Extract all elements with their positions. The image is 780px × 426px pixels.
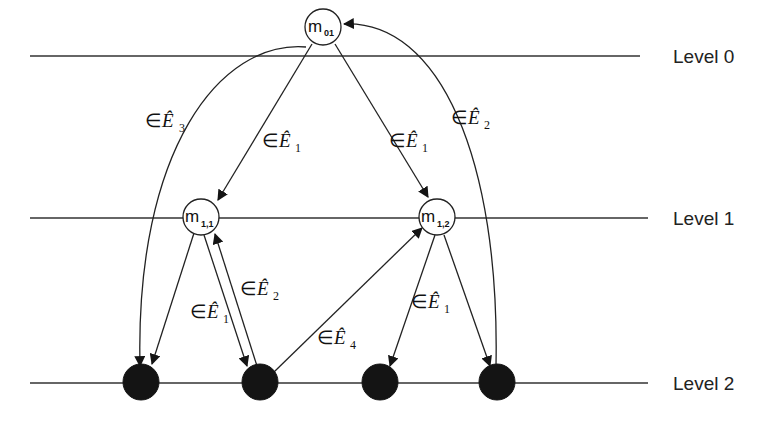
svg-text:1: 1 [223, 312, 229, 326]
svg-text:4: 4 [350, 338, 356, 352]
edge-label-m11-n2: ∈Ê 1 [190, 301, 229, 326]
node-level2-2 [242, 364, 278, 400]
edge-m01-m11 [218, 44, 312, 200]
edge-label-n2-m11: ∈Ê 2 [240, 278, 279, 303]
svg-text:∈Ê: ∈Ê [317, 327, 346, 348]
edge-label-m12-n3: ∈Ê 1 [411, 291, 450, 316]
svg-text:∈Ê: ∈Ê [389, 130, 418, 151]
svg-text:1,2: 1,2 [437, 219, 450, 229]
node-m12: m 1,2 [419, 199, 455, 235]
node-m01: m 01 [305, 9, 341, 45]
svg-text:1: 1 [295, 141, 301, 155]
svg-text:m: m [185, 207, 199, 226]
edge-label-n2-m12: ∈Ê 4 [317, 327, 356, 352]
level-1-label: Level 1 [673, 208, 734, 229]
edge-m12-n4 [444, 235, 490, 366]
node-level2-1 [123, 364, 159, 400]
edge-label-m01-m11: ∈Ê 1 [262, 130, 301, 155]
node-level2-4 [479, 364, 515, 400]
node-m11: m 1,1 [183, 199, 219, 235]
hierarchy-diagram: Level 0 Level 1 Level 2 m 01 m 1,1 m 1,2… [0, 0, 780, 426]
svg-text:1: 1 [422, 141, 428, 155]
svg-text:1: 1 [444, 302, 450, 316]
svg-text:∈Ê: ∈Ê [145, 110, 174, 131]
level-0-label: Level 0 [673, 46, 734, 67]
edge-n4-m01 [344, 24, 496, 366]
svg-text:01: 01 [324, 28, 334, 38]
level-2-label: Level 2 [673, 373, 734, 394]
edge-n2-m12 [274, 228, 422, 372]
svg-text:∈Ê: ∈Ê [451, 107, 480, 128]
svg-text:∈Ê: ∈Ê [190, 301, 219, 322]
node-level2-3 [362, 364, 398, 400]
edge-label-m01-m12: ∈Ê 1 [389, 130, 428, 155]
edge-m01-m12 [335, 44, 428, 197]
svg-text:2: 2 [484, 118, 490, 132]
svg-text:m: m [308, 17, 322, 36]
svg-text:∈Ê: ∈Ê [262, 130, 291, 151]
svg-text:2: 2 [273, 289, 279, 303]
svg-text:m: m [421, 207, 435, 226]
svg-text:∈Ê: ∈Ê [411, 291, 440, 312]
svg-text:3: 3 [179, 121, 185, 135]
edge-label-e3: ∈Ê 3 [145, 110, 185, 135]
edge-n2-m11 [215, 234, 257, 366]
edge-label-e2-top: ∈Ê 2 [451, 107, 490, 132]
edge-m11-n1 [152, 233, 194, 364]
svg-text:1,1: 1,1 [201, 219, 214, 229]
svg-text:∈Ê: ∈Ê [240, 278, 269, 299]
